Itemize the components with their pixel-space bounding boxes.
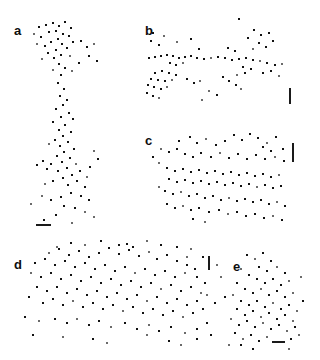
- gold-particle: [60, 278, 62, 280]
- gold-particle: [130, 280, 132, 282]
- gold-particle: [160, 288, 162, 290]
- gold-particle: [260, 34, 262, 36]
- gold-particle: [256, 278, 258, 280]
- gold-particle: [63, 151, 65, 153]
- gold-particle: [180, 290, 182, 292]
- gold-particle: [228, 197, 230, 199]
- panel-label-c: c: [145, 134, 152, 147]
- gold-particle: [176, 181, 178, 183]
- gold-particle: [242, 66, 244, 68]
- gold-particle: [166, 302, 168, 304]
- gold-particle: [192, 182, 194, 184]
- gold-particle: [136, 328, 138, 330]
- gold-particle: [152, 32, 154, 34]
- gold-particle: [42, 302, 44, 304]
- gold-particle: [240, 300, 242, 302]
- gold-particle: [212, 195, 214, 197]
- gold-particle: [74, 207, 76, 209]
- gold-particle: [268, 294, 270, 296]
- gold-particle: [284, 296, 286, 298]
- gold-particle: [152, 156, 154, 158]
- gold-particle: [57, 82, 59, 84]
- gold-particle: [158, 44, 160, 46]
- gold-particle: [55, 49, 57, 51]
- gold-particle: [48, 252, 50, 254]
- gold-particle: [256, 300, 258, 302]
- gold-particle: [206, 172, 208, 174]
- gold-particle: [257, 137, 259, 139]
- gold-particle: [281, 63, 283, 65]
- gold-particle: [215, 144, 217, 146]
- gold-particle: [214, 302, 216, 304]
- gold-particle: [164, 270, 166, 272]
- gold-particle: [106, 296, 108, 298]
- gold-particle: [59, 95, 61, 97]
- gold-particle: [281, 219, 283, 221]
- gold-particle: [60, 54, 62, 56]
- gold-particle: [254, 175, 256, 177]
- gold-particle: [50, 163, 52, 165]
- gold-particle: [92, 338, 94, 340]
- gold-particle: [284, 272, 286, 274]
- gold-particle: [262, 146, 264, 148]
- gold-particle: [48, 143, 50, 145]
- gold-particle: [252, 348, 254, 350]
- gold-particle: [88, 199, 90, 201]
- gold-particle: [286, 330, 288, 332]
- gold-particle: [47, 52, 49, 54]
- gold-particle: [92, 302, 94, 304]
- gold-particle: [146, 240, 148, 242]
- gold-particle: [240, 88, 242, 90]
- gold-particle: [93, 216, 95, 218]
- gold-particle: [48, 31, 50, 33]
- gold-particle: [142, 312, 144, 314]
- gold-particle: [94, 268, 96, 270]
- gold-particle: [58, 129, 60, 131]
- gold-particle: [52, 121, 54, 123]
- gold-particle: [216, 94, 218, 96]
- gold-particle: [114, 270, 116, 272]
- gold-particle: [254, 326, 256, 328]
- gold-particle: [108, 247, 110, 249]
- gold-particle: [252, 201, 254, 203]
- gold-particle: [248, 304, 250, 306]
- gold-particle: [158, 330, 160, 332]
- gold-particle: [164, 190, 166, 192]
- gold-particle: [292, 292, 294, 294]
- gold-particle: [164, 80, 166, 82]
- gold-particle: [264, 158, 266, 160]
- gold-particle: [227, 47, 229, 49]
- gold-particle: [242, 338, 244, 340]
- gold-particle: [203, 58, 205, 60]
- gold-particle: [272, 187, 274, 189]
- gold-particle: [266, 62, 268, 64]
- gold-particle: [248, 183, 250, 185]
- gold-particle: [146, 334, 148, 336]
- gold-particle: [168, 340, 170, 342]
- gold-particle: [186, 304, 188, 306]
- gold-particle: [86, 294, 88, 296]
- gold-particle: [88, 55, 90, 57]
- gold-particle: [184, 332, 186, 334]
- gold-particle: [216, 181, 218, 183]
- gold-particle: [184, 272, 186, 274]
- gold-particle: [56, 155, 58, 157]
- gold-particle: [70, 131, 72, 133]
- gold-particle: [150, 40, 152, 42]
- gold-particle: [232, 182, 234, 184]
- gold-particle: [262, 72, 264, 74]
- gold-particle: [262, 173, 264, 175]
- gold-particle: [66, 99, 68, 101]
- gold-particle: [153, 86, 155, 88]
- gold-particle: [260, 199, 262, 201]
- gold-particle: [262, 252, 264, 254]
- gold-particle: [52, 69, 54, 71]
- gold-particle: [138, 255, 140, 257]
- gold-particle: [73, 148, 75, 150]
- gold-particle: [70, 192, 72, 194]
- gold-particle: [154, 274, 156, 276]
- gold-particle: [86, 46, 88, 48]
- gold-particle: [66, 322, 68, 324]
- gold-particle: [148, 57, 150, 59]
- gold-particle: [202, 308, 204, 310]
